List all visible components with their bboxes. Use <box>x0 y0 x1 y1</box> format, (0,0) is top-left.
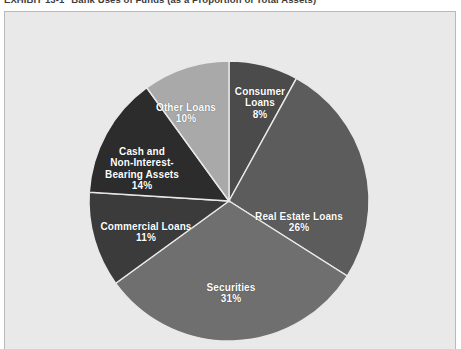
page-title: EXHIBIT 13-1Bank Uses of Funds (as a Pro… <box>4 0 316 5</box>
exhibit-title-row: EXHIBIT 13-1Bank Uses of Funds (as a Pro… <box>0 0 461 9</box>
exhibit-screen: EXHIBIT 13-1Bank Uses of Funds (as a Pro… <box>0 0 461 349</box>
chart-panel: Consumer Loans 8% Real Estate Loans 26% … <box>4 11 456 349</box>
exhibit-number: EXHIBIT 13-1 <box>4 0 64 5</box>
exhibit-caption: Bank Uses of Funds (as a Proportion of T… <box>71 0 316 5</box>
pie-chart: Consumer Loans 8% Real Estate Loans 26% … <box>5 12 456 349</box>
pie-chart-svg <box>5 12 456 349</box>
